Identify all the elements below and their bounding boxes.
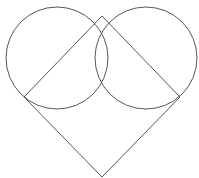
heart-geometry-diagram <box>0 0 199 178</box>
left-circle <box>6 7 108 109</box>
rotated-square <box>24 16 180 177</box>
right-circle <box>95 7 197 109</box>
